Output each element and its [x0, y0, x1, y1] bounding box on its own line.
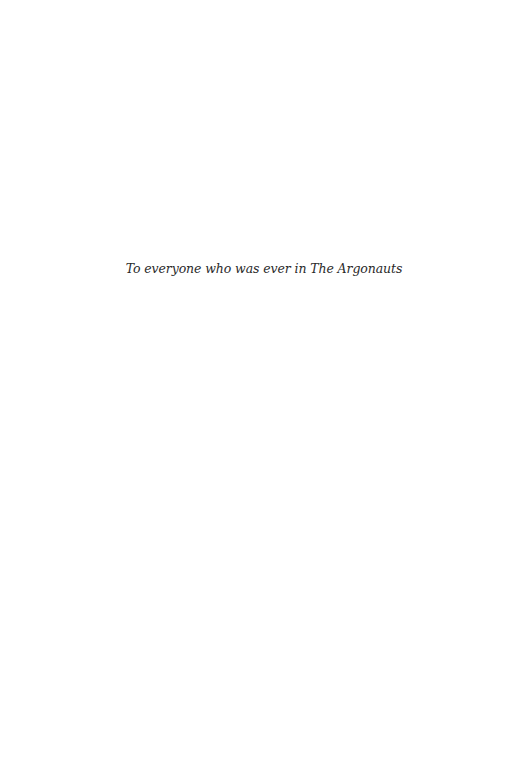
- dedication-text: To everyone who was ever in The Argonaut…: [0, 260, 528, 278]
- book-page: To everyone who was ever in The Argonaut…: [0, 0, 528, 765]
